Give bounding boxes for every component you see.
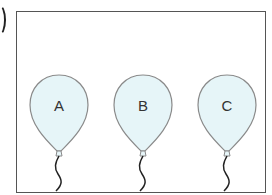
balloon-b: B: [114, 75, 172, 191]
balloon-c: C: [198, 75, 256, 191]
balloon-a: A: [30, 75, 88, 191]
balloon-b-label: B: [138, 97, 148, 114]
balloon-scene: A B C: [0, 0, 272, 195]
balloon-a-label: A: [54, 97, 64, 114]
balloon-c-label: C: [222, 97, 233, 114]
